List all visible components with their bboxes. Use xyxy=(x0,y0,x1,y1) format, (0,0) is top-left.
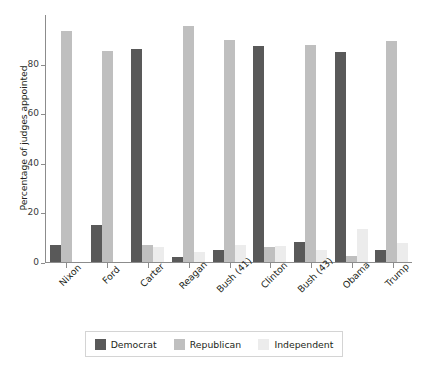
bar-democrat xyxy=(213,250,224,262)
x-tick-mark xyxy=(148,263,149,268)
x-tick-mark xyxy=(352,263,353,268)
bar-democrat xyxy=(335,52,346,262)
x-label-cell: Ford xyxy=(87,269,128,314)
x-label-cell: Bush (41) xyxy=(209,269,250,314)
bar-republican xyxy=(305,45,316,262)
bar-group xyxy=(209,15,250,262)
y-tick-label: 40 xyxy=(15,158,39,170)
y-tick-mark xyxy=(41,263,45,264)
legend-swatch-independent xyxy=(258,339,269,350)
bar-democrat xyxy=(131,49,142,262)
legend-swatch-republican xyxy=(174,339,185,350)
bar-group xyxy=(249,15,290,262)
bar-independent xyxy=(397,243,408,262)
bar-democrat xyxy=(172,257,183,262)
bar-chart-figure: Percentage of judges appointed 020406080… xyxy=(0,0,422,368)
y-tick-mark xyxy=(41,65,45,66)
bar-republican xyxy=(142,245,153,262)
legend-label: Independent xyxy=(274,339,333,350)
legend-item-independent: Independent xyxy=(258,339,333,350)
bar-republican xyxy=(224,40,235,262)
bar-group xyxy=(127,15,168,262)
bar-democrat xyxy=(375,250,386,262)
bar-republican xyxy=(264,247,275,262)
legend-swatch-democrat xyxy=(95,339,106,350)
x-tick-mark xyxy=(66,263,67,268)
bar-republican xyxy=(346,256,357,262)
x-label-cell: Nixon xyxy=(46,269,87,314)
legend-label: Democrat xyxy=(111,339,157,350)
y-tick-mark xyxy=(41,164,45,165)
x-label-cell: Trump xyxy=(372,269,413,314)
chart-legend: DemocratRepublicanIndependent xyxy=(85,331,343,357)
bar-group xyxy=(87,15,128,262)
x-tick-mark xyxy=(270,263,271,268)
bar-democrat xyxy=(253,46,264,262)
bar-democrat xyxy=(50,245,61,262)
x-tick-mark xyxy=(393,263,394,268)
bar-democrat xyxy=(294,242,305,262)
x-axis-labels: NixonFordCarterReaganBush (41)ClintonBus… xyxy=(46,269,413,314)
legend-label: Republican xyxy=(190,339,241,350)
y-tick-label: 80 xyxy=(15,59,39,71)
x-label-cell: Reagan xyxy=(168,269,209,314)
bar-democrat xyxy=(91,225,102,262)
bar-groups xyxy=(46,15,412,262)
bar-group xyxy=(168,15,209,262)
bar-group xyxy=(290,15,331,262)
bar-independent xyxy=(357,229,368,262)
x-tick-mark xyxy=(189,263,190,268)
bar-independent xyxy=(153,247,164,262)
legend-item-democrat: Democrat xyxy=(95,339,157,350)
bar-group xyxy=(46,15,87,262)
bar-group xyxy=(331,15,372,262)
bar-republican xyxy=(102,51,113,262)
y-tick-mark xyxy=(41,114,45,115)
plot-area: 020406080 xyxy=(45,15,412,263)
bar-group xyxy=(371,15,412,262)
y-tick-label: 0 xyxy=(15,257,39,269)
x-tick-mark xyxy=(230,263,231,268)
bar-republican xyxy=(386,41,397,262)
x-label-cell: Carter xyxy=(128,269,169,314)
x-label-cell: Clinton xyxy=(250,269,291,314)
x-label-cell: Bush (43) xyxy=(291,269,332,314)
bar-republican xyxy=(183,26,194,262)
x-label-cell: Obama xyxy=(331,269,372,314)
bar-republican xyxy=(61,31,72,262)
y-tick-label: 20 xyxy=(15,207,39,219)
x-tick-mark xyxy=(107,263,108,268)
y-tick-mark xyxy=(41,213,45,214)
y-tick-label: 60 xyxy=(15,108,39,120)
y-axis-title: Percentage of judges appointed xyxy=(14,8,34,268)
x-tick-mark xyxy=(311,263,312,268)
legend-item-republican: Republican xyxy=(174,339,241,350)
